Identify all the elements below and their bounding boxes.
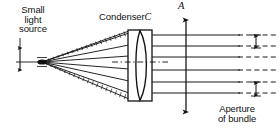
label-condenser-text: Condenser bbox=[99, 11, 145, 22]
label-small-light-source: Small light source bbox=[5, 5, 61, 34]
label-condenser-symbol: C bbox=[145, 11, 152, 22]
light-source-marker bbox=[16, 48, 47, 70]
incident-ray-group bbox=[42, 31, 129, 99]
incident-ray-6 bbox=[42, 62, 129, 93]
label-condenser: CondenserC bbox=[99, 12, 151, 22]
emergent-ray-group bbox=[152, 35, 240, 93]
condenser-lens bbox=[128, 30, 152, 101]
ray-spacing-arrows bbox=[251, 35, 261, 96]
source-point bbox=[37, 59, 46, 64]
emergent-ray-dashed-tails bbox=[238, 35, 278, 93]
optics-figure-condenser-bundle: Small light source CondenserC A Aperture… bbox=[0, 0, 280, 131]
label-aperture-of-bundle: Aperture of bundle bbox=[196, 104, 278, 123]
label-aperture-arrow-A: A bbox=[178, 1, 184, 12]
